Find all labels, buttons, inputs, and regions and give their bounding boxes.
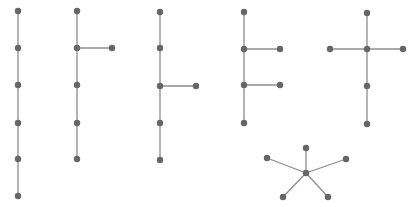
node bbox=[157, 157, 163, 163]
node bbox=[277, 82, 283, 88]
node bbox=[74, 156, 80, 162]
node bbox=[364, 10, 370, 16]
node bbox=[264, 155, 270, 161]
node bbox=[193, 83, 199, 89]
graph-tree-cross-edges bbox=[330, 13, 403, 124]
node bbox=[277, 46, 283, 52]
edge bbox=[306, 159, 346, 173]
graph-tree-two-branches-edges bbox=[244, 12, 280, 123]
graph-tree-two-branches-nodes bbox=[241, 9, 283, 126]
node bbox=[364, 83, 370, 89]
tree-diagram bbox=[0, 0, 411, 207]
node bbox=[241, 120, 247, 126]
node bbox=[15, 8, 21, 14]
edge bbox=[306, 173, 328, 197]
node bbox=[15, 120, 21, 126]
node bbox=[109, 45, 115, 51]
node bbox=[15, 193, 21, 199]
node bbox=[343, 156, 349, 162]
node bbox=[364, 121, 370, 127]
node bbox=[280, 194, 286, 200]
graph-tree-branch-at-3-edges bbox=[160, 12, 196, 160]
node bbox=[74, 8, 80, 14]
node bbox=[241, 46, 247, 52]
node bbox=[157, 83, 163, 89]
node bbox=[74, 82, 80, 88]
node bbox=[157, 9, 163, 15]
node bbox=[364, 46, 370, 52]
node bbox=[74, 120, 80, 126]
edge bbox=[283, 173, 306, 197]
node bbox=[241, 82, 247, 88]
node bbox=[241, 9, 247, 15]
node bbox=[400, 46, 406, 52]
node bbox=[15, 45, 21, 51]
node bbox=[157, 120, 163, 126]
nodes-layer bbox=[15, 8, 406, 200]
node bbox=[15, 156, 21, 162]
edges-layer bbox=[18, 11, 403, 197]
node bbox=[325, 194, 331, 200]
node bbox=[303, 170, 309, 176]
edge bbox=[267, 158, 306, 173]
node bbox=[303, 145, 309, 151]
graph-tree-branch-at-2-nodes bbox=[74, 8, 115, 162]
node bbox=[157, 45, 163, 51]
graph-tree-branch-at-2-edges bbox=[77, 11, 112, 159]
node bbox=[327, 46, 333, 52]
node bbox=[15, 82, 21, 88]
node bbox=[74, 45, 80, 51]
